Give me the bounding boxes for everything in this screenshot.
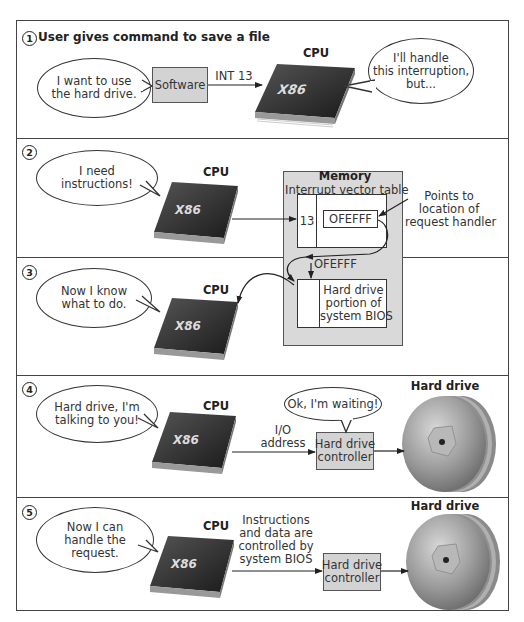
- controller-waiting-bubble: Ok, I'm waiting!: [284, 387, 382, 421]
- ivt-index: 13: [298, 215, 316, 228]
- ivt-value: OFEFFF: [323, 213, 378, 226]
- svg-text:X86: X86: [170, 557, 197, 571]
- step-number-3: 3: [22, 265, 37, 280]
- user-speech-bubble: I want to use the hard drive.: [37, 58, 151, 118]
- svg-text:X86: X86: [174, 203, 201, 217]
- hard-drive-icon: [400, 392, 500, 500]
- hard-drive-icon: [404, 510, 504, 618]
- memory-label: Memory: [310, 170, 380, 183]
- cpu-label: CPU: [196, 520, 236, 533]
- bios-label: Hard drive portion of system BIOS: [320, 284, 387, 323]
- svg-text:X86: X86: [174, 319, 201, 333]
- hard-drive-controller-box: Hard drive controller: [316, 432, 374, 470]
- software-box: Software: [152, 67, 208, 103]
- bios-address-label: OFEFFF: [314, 258, 364, 271]
- section-divider-1-2: [16, 138, 509, 139]
- hard-drive-controller-box: Hard drive controller: [323, 553, 381, 591]
- cpu-need-instructions-bubble: I need instructions!: [36, 150, 158, 206]
- io-address-label: I/O address: [258, 424, 308, 450]
- cpu-knows-bubble: Now I know what to do.: [36, 268, 152, 328]
- step-number-1: 1: [22, 31, 37, 46]
- cpu-speech-bubble: I'll handle this interruption, but...: [368, 38, 474, 104]
- section-divider-3-4: [16, 375, 509, 376]
- cpu-talking-bubble: Hard drive, I'm talking to you!: [36, 385, 158, 443]
- cpu-chip-icon: X86: [255, 62, 355, 134]
- pointer-annotation: Points to location of request handler: [405, 190, 493, 229]
- bios-control-label: Instructions and data are controlled by …: [238, 514, 314, 566]
- int13-label: INT 13: [214, 70, 254, 83]
- cpu-label: CPU: [196, 166, 236, 179]
- step-number-5: 5: [22, 505, 37, 520]
- svg-text:X86: X86: [276, 82, 308, 97]
- svg-text:X86: X86: [172, 433, 199, 447]
- cpu-handle-request-bubble: Now I can handle the request.: [36, 507, 154, 573]
- cpu-chip-icon: X86: [152, 410, 236, 484]
- step-number-4: 4: [22, 382, 37, 397]
- step-1-title: User gives command to save a file: [38, 30, 270, 44]
- cpu-chip-icon: X86: [154, 296, 238, 370]
- ivt-column-divider: [316, 194, 317, 248]
- cpu-chip-icon: X86: [154, 180, 238, 254]
- step-number-2: 2: [22, 145, 37, 160]
- cpu-chip-icon: X86: [150, 534, 234, 608]
- cpu-label: CPU: [296, 47, 336, 60]
- section-divider-2-3: [16, 257, 509, 258]
